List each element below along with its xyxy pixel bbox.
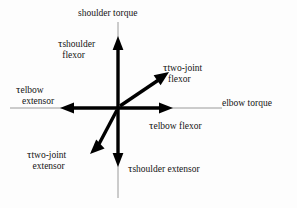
vector-subscript-line2: flexor [163,74,202,84]
vector-label-two-joint-flexor: τtwo-joint flexor [163,57,202,85]
torque-diagram-figure: shoulder torque elbow torque τshoulder f… [0,0,297,208]
vector-subscript-line2: flexor [58,50,95,60]
vector-label-elbow-extensor: τelbow extensor [16,79,54,107]
vector-label-two-joint-extensor: τtwo-joint extensor [27,144,66,172]
vector-subscript-line1: elbow flexor [153,121,201,131]
vector-subscript-line1: shoulder extensor [132,164,199,174]
arrowhead-down-left [90,140,105,154]
vector-subscript-line1: elbow [20,85,43,95]
vector-shoulder-flexor [113,36,124,108]
vector-label-elbow-flexor: τelbow flexor [149,115,202,132]
vector-label-shoulder-flexor: τshoulder flexor [58,33,95,61]
vector-subscript-line2: extensor [16,96,54,106]
vector-label-shoulder-extensor: τshoulder extensor [128,158,200,175]
vector-elbow-extensor [60,103,118,114]
vector-subscript-line2: extensor [27,161,66,171]
vector-subscript-line1: two-joint [167,63,202,73]
arrowhead-up [113,36,124,50]
axis-label-shoulder-torque: shoulder torque [78,8,137,18]
vector-elbow-flexor [118,103,173,114]
axis-label-elbow-torque: elbow torque [222,98,272,108]
vector-two-joint-extensor [90,110,117,154]
arrowhead-left [60,103,74,114]
vector-subscript-line1: shoulder [62,39,95,49]
arrowhead-right [159,103,173,114]
vector-two-joint-flexor [120,72,169,106]
vector-subscript-line1: two-joint [31,150,66,160]
arrowhead-down [113,153,124,167]
